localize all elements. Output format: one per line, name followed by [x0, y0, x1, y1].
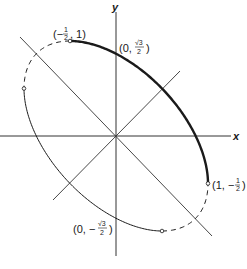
svg-text:1: 1: [236, 177, 240, 184]
svg-text:): ): [242, 179, 246, 191]
svg-text:1: 1: [64, 26, 68, 33]
svg-text:(1, −: (1, −: [212, 179, 234, 191]
label-zero-neg-root3-over-2: (0, − √3 2 ): [73, 220, 113, 236]
point-neg-one-half-marker: [22, 87, 26, 91]
svg-text:2: 2: [100, 229, 104, 236]
x-axis-label: x: [232, 130, 240, 142]
svg-text:√3: √3: [98, 220, 106, 227]
svg-text:2: 2: [64, 34, 68, 41]
svg-text:(0, −: (0, −: [73, 223, 95, 235]
dashed-arc-lower-right: [162, 184, 208, 232]
label-neg-half-one: (− 1 2 , 1): [53, 26, 86, 41]
svg-text:2: 2: [236, 185, 240, 192]
svg-text:2: 2: [137, 48, 141, 55]
svg-text:√3: √3: [135, 39, 143, 46]
ellipse-diagram: x y (− 1 2 , 1) (0, √3 2 ) (1, − 1 2 ) (…: [0, 0, 247, 269]
svg-text:): ): [109, 223, 113, 235]
label-one-neg-half: (1, − 1 2 ): [212, 177, 246, 192]
y-axis-label: y: [111, 1, 119, 13]
svg-text:, 1): , 1): [70, 28, 86, 40]
svg-text:(−: (−: [53, 28, 63, 40]
svg-text:(0,: (0,: [119, 42, 132, 54]
point-half-neg-one-marker: [160, 229, 164, 233]
label-zero-root3-over-2: (0, √3 2 ): [119, 39, 150, 55]
svg-text:): ): [146, 42, 150, 54]
point-one-neg-half-marker: [206, 182, 210, 186]
